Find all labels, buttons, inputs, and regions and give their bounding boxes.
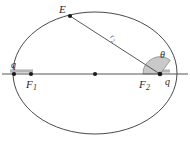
radius-r2-segment <box>70 16 160 74</box>
focus-1-label-subscript: 1 <box>33 83 37 92</box>
figure-canvas <box>0 0 190 144</box>
focus-1-marker <box>29 72 33 76</box>
center-marker <box>93 72 97 76</box>
focus-2-label-text: F <box>139 78 146 90</box>
focus-2-label: F2 <box>139 79 150 92</box>
focus-2-label-subscript: 2 <box>146 83 150 92</box>
point-e-label: E <box>59 4 66 15</box>
ellipse-figure: E r2 θ q q F1 F2 <box>0 0 190 144</box>
charge-right-label: q <box>165 77 170 87</box>
vertex-left-marker <box>12 72 16 76</box>
focus-1-label: F1 <box>26 79 37 92</box>
theta-angle-label: θ <box>160 50 165 60</box>
vertex-right-marker <box>158 72 163 77</box>
focus-1-label-text: F <box>26 78 33 90</box>
point-e-marker <box>68 14 72 18</box>
charge-left-label: q <box>11 60 16 70</box>
